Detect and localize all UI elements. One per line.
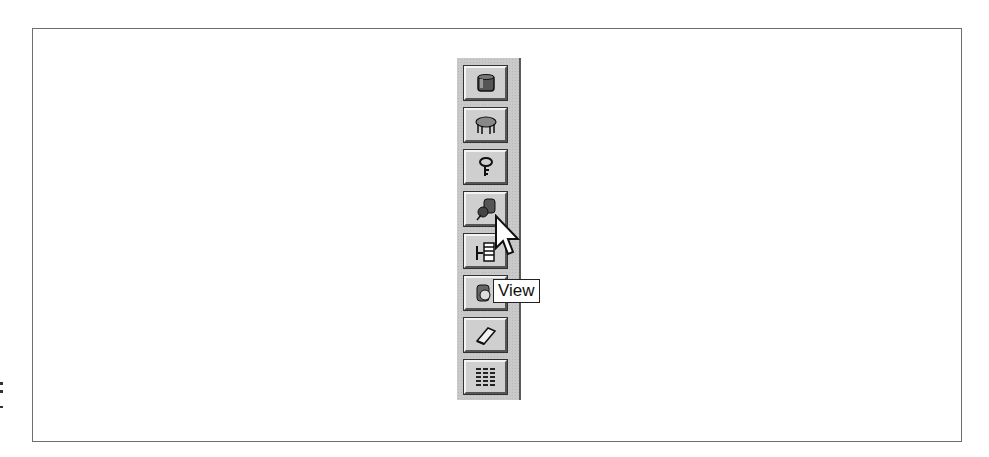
grid-icon [473,364,499,390]
key-icon [473,154,499,180]
eraser-icon [473,322,499,348]
tooltip: View [493,279,540,303]
grid-button[interactable] [464,360,507,394]
mouse-pointer-icon [494,214,522,258]
table-button[interactable] [464,66,507,100]
query-button[interactable] [464,108,507,142]
edge-mark [0,382,4,410]
eraser-button[interactable] [464,318,507,352]
key-button[interactable] [464,150,507,184]
query-table-icon [473,112,499,138]
table-cylinder-icon [473,70,499,96]
